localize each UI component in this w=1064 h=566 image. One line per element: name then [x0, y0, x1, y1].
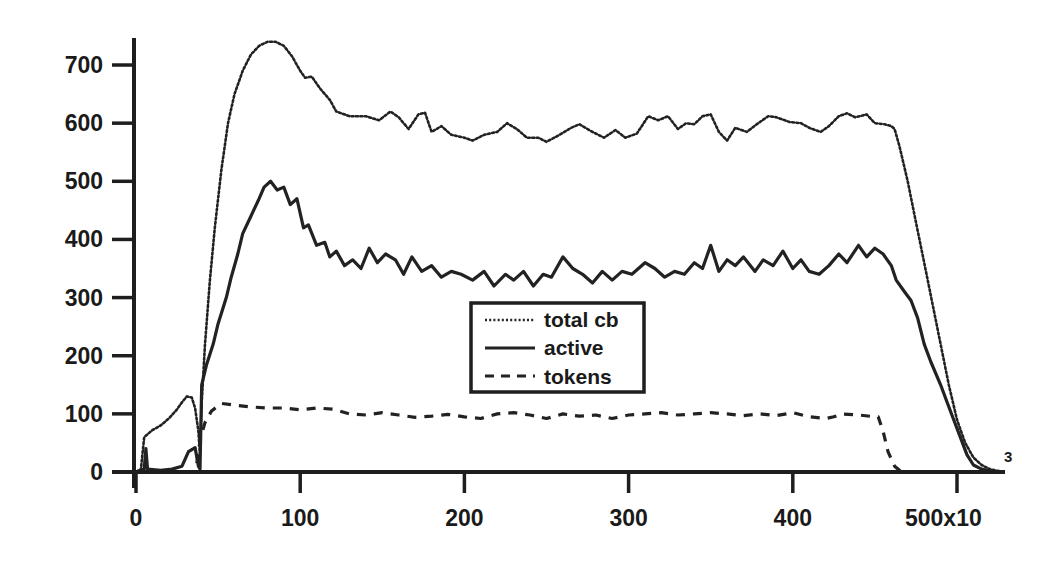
legend-label-total-cb: total cb — [544, 308, 619, 331]
legend: total cb active tokens — [471, 303, 644, 392]
x-tick-label: 200 — [445, 505, 483, 531]
legend-label-active: active — [544, 336, 604, 359]
x-tick-label: 100 — [281, 505, 319, 531]
y-tick-label: 700 — [65, 52, 103, 78]
x-tick-label: 300 — [609, 505, 647, 531]
y-tick-label: 0 — [90, 459, 103, 485]
x-axis-ticks: 0100200300400500x10 — [130, 472, 982, 531]
y-tick-label: 300 — [65, 285, 103, 311]
x-tick-label: 400 — [774, 505, 812, 531]
x-axis-exponent: 3 — [1004, 448, 1012, 465]
line-chart: 0100200300400500600700 0100200300400500x… — [0, 0, 1064, 566]
y-tick-label: 500 — [65, 168, 103, 194]
series-line-total-cb — [136, 42, 1003, 472]
legend-label-tokens: tokens — [544, 365, 612, 388]
y-tick-label: 400 — [65, 226, 103, 252]
x-tick-label: 500x10 — [905, 505, 982, 531]
series-layer — [136, 42, 1003, 472]
y-tick-label: 600 — [65, 110, 103, 136]
y-axis-ticks: 0100200300400500600700 — [65, 52, 134, 485]
y-tick-label: 200 — [65, 343, 103, 369]
y-tick-label: 100 — [65, 401, 103, 427]
x-tick-label: 0 — [130, 505, 143, 531]
series-line-tokens — [136, 403, 1003, 472]
